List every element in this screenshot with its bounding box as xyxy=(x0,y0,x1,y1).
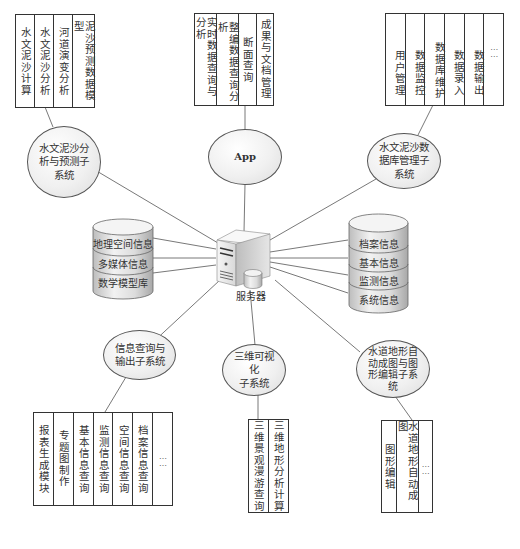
label-line: 形编辑子系 xyxy=(368,369,418,380)
label-line: 三维可视化 xyxy=(234,350,274,375)
db-layer: 多媒体信息 xyxy=(92,255,154,271)
label-line: 统 xyxy=(388,381,398,392)
module-item: 专题图制作 xyxy=(54,413,74,505)
label-line: 析与预测子 xyxy=(39,155,89,167)
module-item: 断面查询 xyxy=(239,14,257,105)
module-item: 河道演变分析 xyxy=(54,15,73,107)
module-item: 数据监控 xyxy=(406,14,426,105)
module-item: 数据输出 xyxy=(465,14,485,105)
module-item: 图形编辑 xyxy=(382,421,397,512)
module-item: 三维地形分析计算 xyxy=(269,420,288,512)
db-layer: 地理空间信息 xyxy=(92,235,154,251)
subsystem-info-query: 信息查询与 输出子系统 xyxy=(103,330,176,380)
module-item: 监测信息查询 xyxy=(94,413,114,505)
label-line: 系统 xyxy=(54,169,74,181)
label-line: 据库管理子 xyxy=(379,154,429,166)
subsystem-db-management: 水文泥沙数 据库管理子 系统 xyxy=(367,133,441,189)
module-item: 空间信息查询 xyxy=(113,413,133,505)
server-label: 服务器 xyxy=(236,288,266,303)
label-line: 输出子系统 xyxy=(115,355,165,367)
db-layer: 数学模型库 xyxy=(92,274,154,290)
subsystem-label: 水道地形自 动成图与图 形编辑子系 统 xyxy=(368,346,418,392)
subsystem-label: 信息查询与 输出子系统 xyxy=(115,342,165,368)
db-layer: 监测信息 xyxy=(348,272,409,288)
label-line: 水文泥沙数 xyxy=(379,141,429,153)
label-line: 子系统 xyxy=(239,377,269,389)
module-box-terrain-mapping: 图形编辑 水道地形自动成图 …… xyxy=(381,420,433,513)
module-item-ellipsis: …… xyxy=(153,413,172,505)
module-item: 用户管理 xyxy=(386,14,406,105)
module-item: 报表生成模块 xyxy=(34,413,54,505)
module-item: 实时数据查询与分析 xyxy=(195,14,217,105)
db-layer: 档案信息 xyxy=(348,235,409,251)
module-item: 水文泥沙分析 xyxy=(35,15,54,107)
subsystem-label: 三维可视化 子系统 xyxy=(231,350,277,389)
module-item: 数据录入 xyxy=(445,14,465,105)
subsystem-label: 水文泥沙分 析与预测子 系统 xyxy=(39,142,89,181)
subsystem-label: App xyxy=(234,151,256,164)
server-database-icon xyxy=(242,268,264,290)
subsystem-sediment-analysis: 水文泥沙分 析与预测子 系统 xyxy=(27,126,101,198)
label-line: 信息查询与 xyxy=(115,342,165,354)
db-layer: 基本信息 xyxy=(348,254,409,270)
module-box-sediment-analysis: 水文泥沙计算 水文泥沙分析 河道演变分析 泥沙预测数据模型 xyxy=(15,14,95,108)
module-box-info-query: 报表生成模块 专题图制作 基本信息查询 监测信息查询 空间信息查询 档案信息查询… xyxy=(33,412,173,506)
subsystem-label: 水文泥沙数 据库管理子 系统 xyxy=(379,141,429,180)
module-item: 三维景观漫游查询 xyxy=(249,420,269,512)
module-item: 泥沙预测数据模型 xyxy=(73,15,94,107)
module-item: 整编数据查询分析 xyxy=(217,14,239,105)
label-line: 水文泥沙分 xyxy=(39,142,89,154)
subsystem-app: App xyxy=(208,129,282,185)
database-right: 档案信息 基本信息 监测信息 系统信息 xyxy=(348,213,409,315)
module-item: 水文泥沙计算 xyxy=(16,15,35,107)
label-line: 系统 xyxy=(394,168,414,180)
module-item: 数据库维护 xyxy=(425,14,445,105)
module-item-ellipsis: …… xyxy=(484,14,503,105)
module-item-ellipsis: …… xyxy=(419,421,433,512)
module-item: 基本信息查询 xyxy=(74,413,94,505)
db-layer: 系统信息 xyxy=(348,291,409,307)
label-line: 动成图与图 xyxy=(368,358,418,369)
module-item: 成果与文档管理 xyxy=(257,14,274,105)
label-line: 水道地形自 xyxy=(368,346,418,357)
module-box-app: 实时数据查询与分析 整编数据查询分析 断面查询 成果与文档管理 xyxy=(194,13,274,106)
subsystem-terrain-mapping: 水道地形自 动成图与图 形编辑子系 统 xyxy=(356,340,430,398)
module-item: 水道地形自动成图 xyxy=(397,421,419,512)
database-left: 地理空间信息 多媒体信息 数学模型库 xyxy=(92,218,154,300)
server: 服务器 xyxy=(214,228,274,300)
subsystem-3d-visualization: 三维可视化 子系统 xyxy=(222,344,286,396)
module-box-db-management: 用户管理 数据监控 数据库维护 数据录入 数据输出 …… xyxy=(385,13,504,106)
module-box-3d-visualization: 三维景观漫游查询 三维地形分析计算 xyxy=(248,419,289,513)
module-item: 档案信息查询 xyxy=(133,413,153,505)
